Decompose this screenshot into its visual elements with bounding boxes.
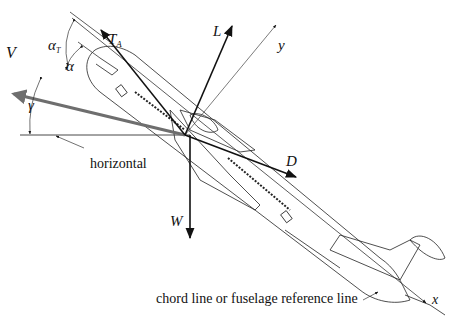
y-axis-label: y: [276, 37, 285, 53]
thrust-label: TA: [108, 31, 122, 49]
drag-label: D: [285, 153, 297, 169]
force-diagram: V TA L y D W x αT α γ horizontal chord l…: [0, 0, 463, 318]
alpha-label: α: [66, 58, 75, 74]
lift-label: L: [212, 23, 221, 39]
velocity-vector: [14, 94, 185, 135]
horizontal-leader: [56, 136, 84, 148]
x-axis-label: x: [431, 292, 439, 307]
y-axis-line: [185, 25, 276, 135]
lift-vector: [185, 26, 232, 135]
chord-line-annotation: chord line or fuselage reference line: [156, 291, 358, 306]
drag-vector: [185, 135, 296, 177]
velocity-label: V: [6, 44, 18, 61]
alpha-reference-line: [78, 42, 100, 58]
alpha-t-label: αT: [48, 37, 61, 55]
thrust-reference-line: [70, 12, 110, 42]
weight-label: W: [170, 213, 184, 229]
horizontal-annotation: horizontal: [90, 156, 147, 171]
